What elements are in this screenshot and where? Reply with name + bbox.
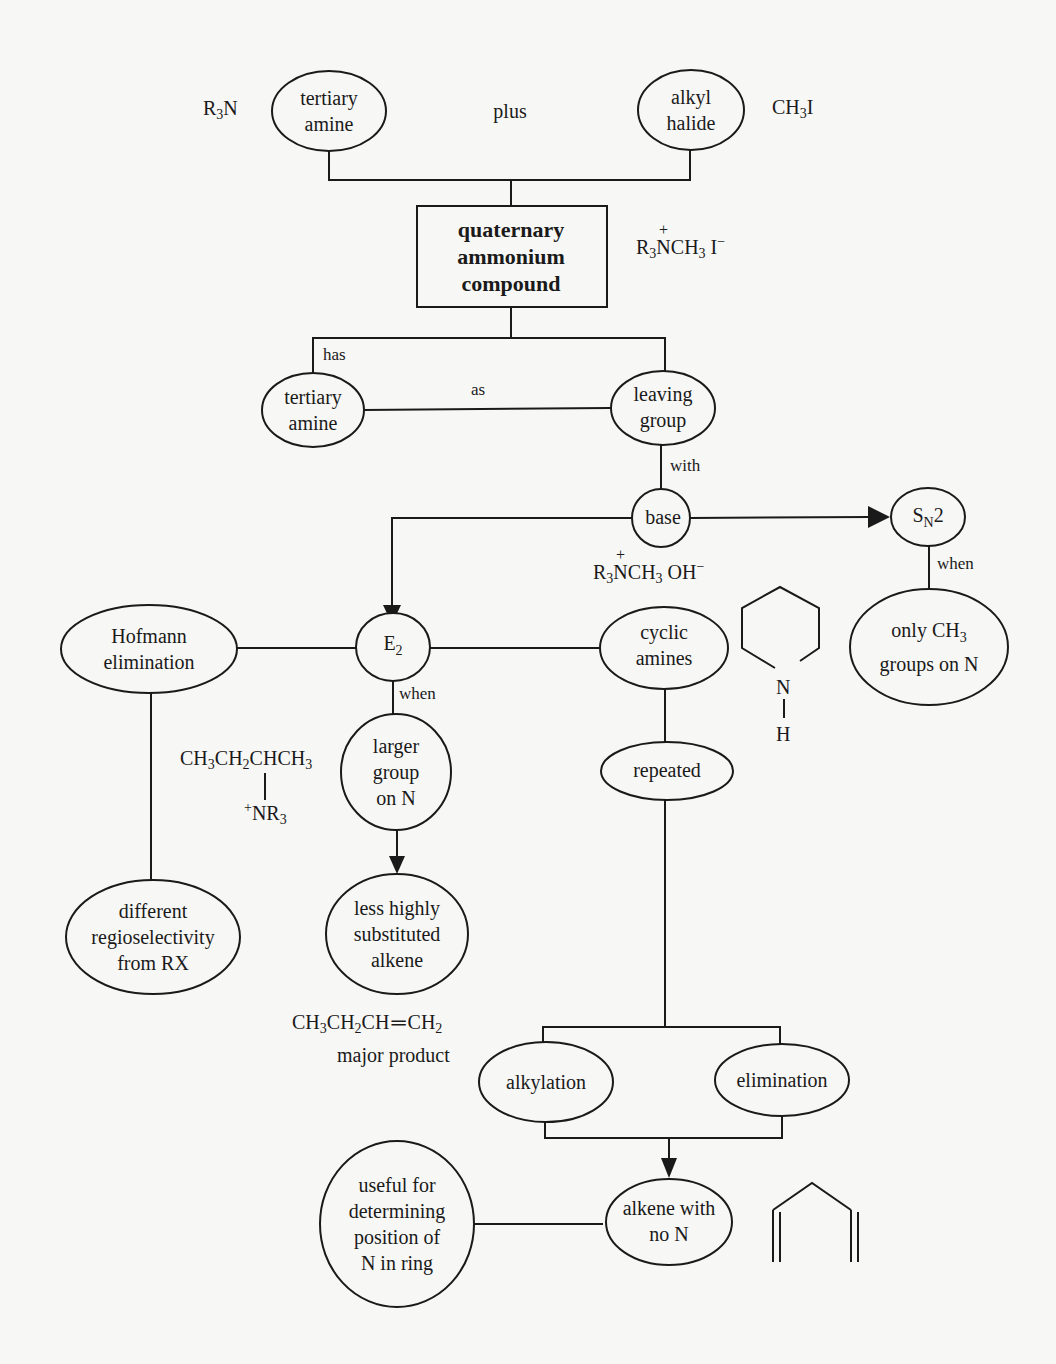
arrow-to-sn2: [868, 506, 890, 528]
edge-label-as: as: [471, 380, 485, 400]
formula-ch3i: CH3I: [772, 96, 813, 122]
formula-r3n: R3N: [203, 97, 238, 123]
label-less-highly-substituted: less highly substituted alkene: [354, 895, 441, 973]
edge-label-has: has: [323, 345, 346, 365]
label-alkene-no-n: alkene with no N: [623, 1195, 716, 1247]
label-repeated: repeated: [633, 757, 701, 783]
diagram-canvas: [0, 0, 1056, 1364]
edge-label-when-sn2: when: [937, 554, 974, 574]
piperidine-n-label: N: [776, 676, 790, 699]
label-cyclic-amines: cyclic amines: [636, 619, 693, 671]
arrow-to-alkene-no-n: [661, 1158, 677, 1178]
formula-quat-hydroxide: R3+NCH3 OH−: [593, 559, 704, 587]
formula-quat-iodide: R3+NCH3 I−: [636, 234, 725, 262]
label-tertiary-amine-top: tertiary amine: [300, 85, 358, 137]
piperidine-h-label: H: [776, 723, 790, 746]
label-e2: E2: [383, 630, 402, 664]
formula-sec-butyl: CH3CH2CHCH3: [180, 747, 312, 773]
label-alkyl-halide: alkyl halide: [667, 84, 716, 136]
label-hofmann-elimination: Hofmann elimination: [103, 623, 194, 675]
edge-label-when-e2: when: [399, 684, 436, 704]
label-sn2: SN2: [912, 502, 943, 536]
formula-nr3: +NR3: [244, 800, 287, 828]
edge-label-plus: plus: [493, 98, 526, 124]
label-useful-for: useful for determining position of N in …: [349, 1172, 446, 1276]
label-leaving-group: leaving group: [634, 381, 693, 433]
label-quaternary-ammonium: quaternary ammonium compound: [457, 216, 565, 297]
label-larger-group: larger group on N: [373, 733, 420, 811]
label-tertiary-amine-mid: tertiary amine: [284, 384, 342, 436]
label-only-ch3: only CH3groups on N: [880, 617, 979, 677]
label-major-product: major product: [337, 1044, 450, 1067]
label-different-regioselectivity: different regioselectivity from RX: [91, 898, 214, 976]
edge-label-with: with: [670, 456, 700, 476]
pentadiene-structure: [773, 1183, 858, 1262]
label-elimination: elimination: [736, 1067, 827, 1093]
label-alkylation: alkylation: [506, 1069, 586, 1095]
formula-butene: CH3CH2CH═CH2: [292, 1011, 442, 1037]
label-base: base: [645, 504, 681, 530]
arrow-to-less-substituted: [389, 856, 405, 874]
